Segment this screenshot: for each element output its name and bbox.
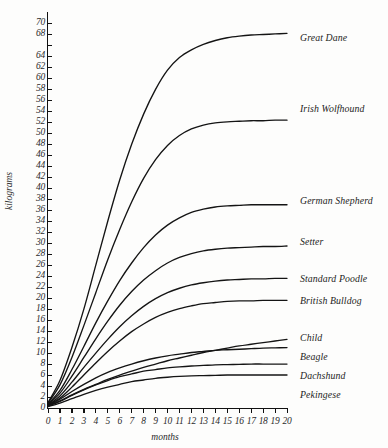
series-label-beagle: Beagle [300,352,328,362]
series-label-german-shepherd: German Shepherd [300,196,373,206]
series-label-dachshund: Dachshund [300,371,346,381]
growth-curve-standard-poodle [48,278,287,405]
growth-curve-dachshund [48,364,287,406]
series-label-setter: Setter [300,237,323,247]
series-label-irish-wolfhound: Irish Wolfhound [300,104,365,114]
growth-curve-pekingese [48,375,287,407]
series-label-british-bulldog: British Bulldog [300,296,362,306]
growth-chart-figure: 0246810121416182022242628303234363840424… [0,0,388,448]
series-label-great-dane: Great Dane [300,33,347,43]
series-label-child: Child [300,333,322,343]
series-label-pekingese: Pekingese [300,390,341,400]
series-label-standard-poodle: Standard Poodle [300,274,367,284]
